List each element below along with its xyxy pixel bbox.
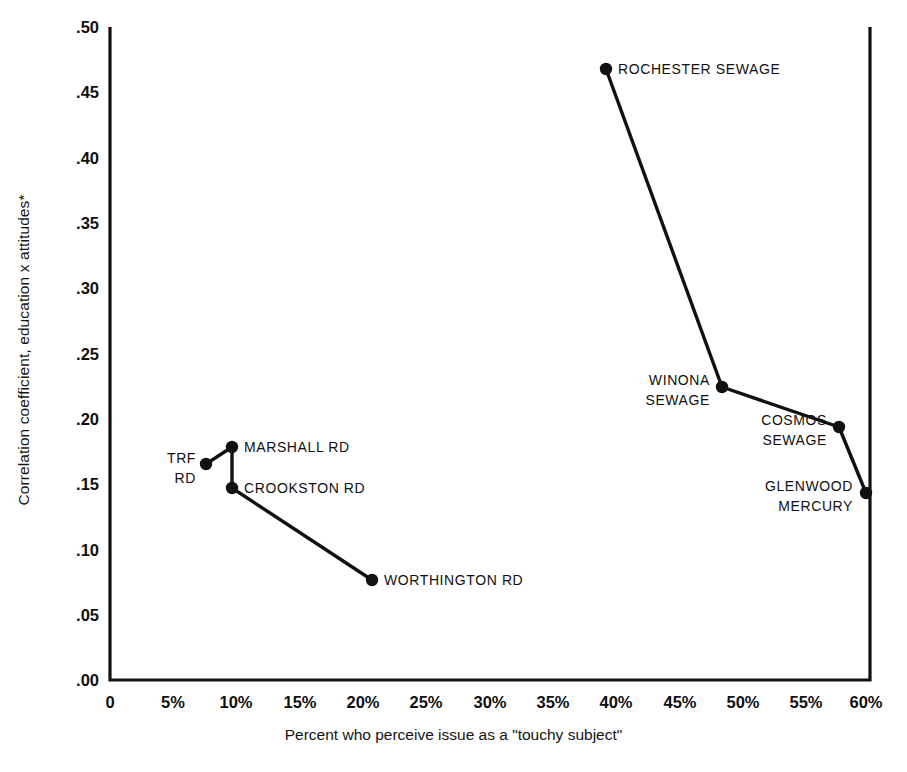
label-winona-sewage-line1: WINONA: [649, 372, 710, 388]
x-axis-tick-labels: 0 5% 10% 15% 20% 25% 30% 35% 40% 45% 50%…: [105, 693, 882, 711]
y-tick-25: .25: [76, 345, 99, 363]
x-tick-40: 40%: [599, 693, 632, 711]
y-tick-40: .40: [76, 149, 99, 167]
series-road-line: [206, 447, 372, 580]
y-tick-15: .15: [76, 475, 99, 493]
data-point-labels: TRF RD MARSHALL RD CROOKSTON RD WORTHING…: [167, 61, 853, 588]
x-tick-50: 50%: [726, 693, 759, 711]
x-axis-title: Percent who perceive issue as a "touchy …: [0, 726, 907, 744]
y-tick-45: .45: [76, 83, 99, 101]
label-glenwood-mercury-line1: GLENWOOD: [765, 478, 853, 494]
y-tick-35: .35: [76, 214, 99, 232]
data-point-cosmos-sewage[interactable]: [833, 421, 845, 433]
y-tick-05: .05: [76, 606, 99, 624]
scatter-plot-svg: .50 .45 .40 .35 .30 .25 .20 .15 .10 .05 …: [0, 0, 907, 772]
label-marshall-rd: MARSHALL RD: [244, 439, 350, 455]
y-axis-tick-labels: .50 .45 .40 .35 .30 .25 .20 .15 .10 .05 …: [76, 18, 99, 689]
data-point-markers: [200, 63, 872, 586]
x-tick-10: 10%: [219, 693, 252, 711]
y-tick-30: .30: [76, 279, 99, 297]
data-point-crookston-rd[interactable]: [226, 482, 238, 494]
label-worthington-rd: WORTHINGTON RD: [384, 572, 523, 588]
y-tick-50: .50: [76, 18, 99, 36]
data-point-rochester-sewage[interactable]: [600, 63, 612, 75]
series-sewage-line: [606, 69, 866, 493]
label-cosmos-sewage-line1: COSMOS: [761, 412, 827, 428]
x-tick-0: 0: [105, 693, 114, 711]
x-tick-20: 20%: [346, 693, 379, 711]
y-tick-00: .00: [76, 671, 99, 689]
data-point-trf-rd[interactable]: [200, 458, 212, 470]
y-tick-20: .20: [76, 410, 99, 428]
y-tick-10: .10: [76, 541, 99, 559]
x-tick-55: 55%: [789, 693, 822, 711]
label-cosmos-sewage-line2: SEWAGE: [762, 432, 827, 448]
data-point-marshall-rd[interactable]: [226, 441, 238, 453]
label-rochester-sewage: ROCHESTER SEWAGE: [618, 61, 780, 77]
x-tick-45: 45%: [663, 693, 696, 711]
chart-figure: .50 .45 .40 .35 .30 .25 .20 .15 .10 .05 …: [0, 0, 907, 772]
label-crookston-rd: CROOKSTON RD: [244, 480, 365, 496]
data-point-worthington-rd[interactable]: [366, 574, 378, 586]
x-tick-60: 60%: [849, 693, 882, 711]
x-tick-15: 15%: [283, 693, 316, 711]
y-axis-title: Correlation coefficient, education x att…: [15, 194, 33, 505]
x-tick-5: 5%: [161, 693, 185, 711]
x-tick-30: 30%: [473, 693, 506, 711]
x-tick-25: 25%: [409, 693, 442, 711]
label-winona-sewage-line2: SEWAGE: [645, 392, 710, 408]
data-point-glenwood-mercury[interactable]: [860, 487, 872, 499]
data-point-winona-sewage[interactable]: [716, 381, 728, 393]
y-axis-title-wrap: Correlation coefficient, education x att…: [6, 0, 42, 700]
label-trf-rd-line1: TRF: [167, 450, 196, 466]
label-trf-rd-line2: RD: [175, 470, 196, 486]
x-tick-35: 35%: [536, 693, 569, 711]
label-glenwood-mercury-line2: MERCURY: [778, 498, 853, 514]
